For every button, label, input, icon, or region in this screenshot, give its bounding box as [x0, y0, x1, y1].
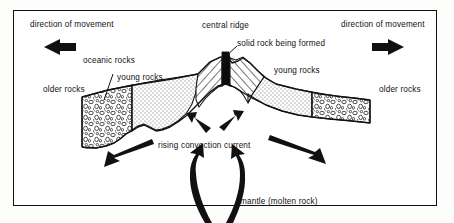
curved-arrow-up-left-icon: [190, 143, 212, 223]
label-oceanic-rocks: oceanic rocks: [83, 57, 135, 65]
label-direction-left: direction of movement: [30, 21, 114, 29]
arrows-layer: [0, 0, 454, 223]
label-young-rocks-left: young rocks: [117, 74, 163, 82]
label-direction-right: direction of movement: [341, 21, 425, 29]
arrow-right-icon: [372, 39, 404, 55]
label-mantle: mantle (molten rock): [240, 198, 318, 206]
label-rising-convection-current: rising convection current: [158, 142, 251, 150]
leader-line-icon: [226, 46, 237, 56]
small-arrow-up-right-icon: [219, 110, 244, 131]
diagonal-arrow-down-left-icon: [104, 139, 154, 167]
label-solid-rock: solid rock being formed: [237, 40, 325, 48]
leader-line-icon: [104, 74, 113, 100]
small-arrow-up-left-icon: [186, 112, 211, 133]
arrow-left-icon: [44, 39, 76, 55]
label-older-rocks-left: older rocks: [43, 86, 85, 94]
diagram-canvas: direction of movement direction of movem…: [0, 0, 454, 223]
diagonal-arrow-down-right-icon: [268, 135, 326, 164]
curved-arrow-up-right-icon: [226, 144, 245, 223]
label-central-ridge: central ridge: [202, 22, 249, 30]
label-young-rocks-right: young rocks: [274, 67, 320, 75]
label-older-rocks-right: older rocks: [379, 86, 421, 94]
